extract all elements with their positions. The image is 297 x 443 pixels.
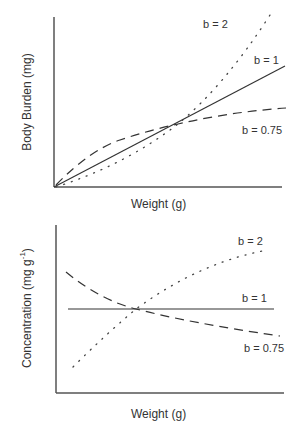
bottom-y-label-main: Concentration (mg g xyxy=(20,259,34,368)
bottom-y-label-close: ) xyxy=(20,248,34,252)
bottom-chart: b = 2 b = 1 b = 0.75 Weight (g) Concentr… xyxy=(18,225,284,421)
bottom-x-axis-label: Weight (g) xyxy=(131,407,186,421)
bottom-label-b1: b = 1 xyxy=(242,292,267,304)
top-label-b1: b = 1 xyxy=(254,54,279,66)
bottom-label-b075: b = 0.75 xyxy=(244,342,284,354)
bottom-y-axis-label: Concentration (mg g-1) xyxy=(18,248,34,368)
bottom-line-b075 xyxy=(66,272,280,336)
bottom-label-b2: b = 2 xyxy=(238,235,263,247)
top-y-axis-label: Body Burden (mg) xyxy=(20,53,34,150)
top-label-b075: b = 0.75 xyxy=(242,124,282,136)
top-x-axis-label: Weight (g) xyxy=(131,197,186,211)
svg-text:Concentration (mg g-1): Concentration (mg g-1) xyxy=(18,248,34,368)
top-label-b2: b = 2 xyxy=(203,18,228,30)
top-line-b075 xyxy=(56,108,286,185)
top-chart: b = 2 b = 1 b = 0.75 Weight (g) Body Bur… xyxy=(20,15,286,211)
top-line-b2 xyxy=(56,15,270,187)
figure: b = 2 b = 1 b = 0.75 Weight (g) Body Bur… xyxy=(0,0,297,443)
